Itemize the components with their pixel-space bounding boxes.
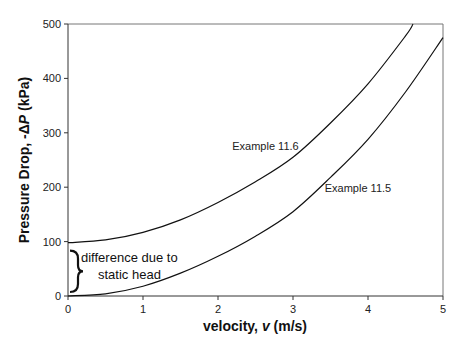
x-tick-label: 0 bbox=[65, 303, 71, 315]
y-tick-label: 300 bbox=[43, 127, 61, 139]
label-example-11-5: Example 11.5 bbox=[325, 182, 391, 194]
x-tick-label: 5 bbox=[440, 303, 446, 315]
static-head-annotation-line2: static head bbox=[98, 267, 161, 282]
y-tick-label: 0 bbox=[55, 290, 61, 302]
y-tick-label: 500 bbox=[43, 18, 61, 30]
x-axis-ticks: 012345 bbox=[65, 296, 446, 315]
pressure-drop-chart: 0100200300400500 012345 Example 11.6 Exa… bbox=[0, 0, 465, 350]
static-head-annotation-line1: difference due to bbox=[81, 250, 178, 265]
x-tick-label: 1 bbox=[140, 303, 146, 315]
x-tick-label: 4 bbox=[365, 303, 371, 315]
y-axis-title: Pressure Drop, -ΔP (kPa) bbox=[16, 77, 32, 243]
y-tick-label: 400 bbox=[43, 72, 61, 84]
label-example-11-6: Example 11.6 bbox=[232, 140, 298, 152]
y-tick-label: 200 bbox=[43, 181, 61, 193]
x-tick-label: 2 bbox=[215, 303, 221, 315]
y-axis-ticks: 0100200300400500 bbox=[43, 18, 68, 302]
x-axis-title: velocity, v (m/s) bbox=[203, 318, 307, 334]
x-tick-label: 3 bbox=[290, 303, 296, 315]
series-line-example-11-6 bbox=[68, 24, 413, 243]
y-tick-label: 100 bbox=[43, 236, 61, 248]
